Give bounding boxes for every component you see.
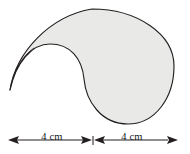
dimension-label-left: 4 cm — [36, 132, 68, 143]
cusp-accent-path — [10, 48, 34, 90]
geometry-figure-svg — [0, 0, 190, 154]
geometry-figure-canvas: 4 cm 4 cm — [0, 0, 190, 154]
arrowhead-right-outer-icon — [167, 136, 178, 144]
comma-shape-path — [10, 9, 174, 124]
dimension-label-right: 4 cm — [116, 132, 148, 143]
shaded-region-group — [10, 9, 174, 124]
